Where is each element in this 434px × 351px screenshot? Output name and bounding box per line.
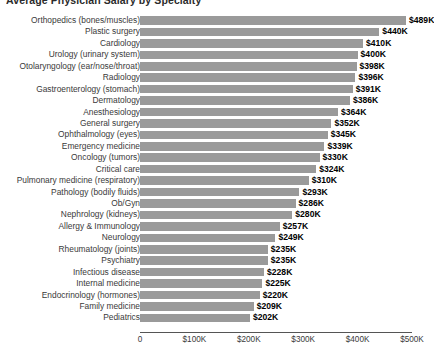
chart-row: Allergy & Immunology$257K	[0, 221, 424, 232]
chart-row: General surgery$352K	[0, 118, 424, 129]
bar-track: $209K	[140, 301, 424, 312]
bar[interactable]	[140, 85, 353, 94]
bar[interactable]	[140, 291, 260, 300]
bar-value-label: $489K	[409, 15, 434, 26]
bar-track: $391K	[140, 84, 424, 95]
bar-track: $410K	[140, 38, 424, 49]
category-label: Dermatology	[0, 95, 140, 106]
bar-track: $440K	[140, 26, 424, 37]
bar[interactable]	[140, 211, 292, 220]
bar[interactable]	[140, 199, 296, 208]
x-axis-tick-label: $500K	[400, 334, 424, 346]
category-label: Pediatrics	[0, 312, 140, 323]
bar[interactable]	[140, 62, 357, 71]
chart-rows: Orthopedics (bones/muscles)$489KPlastic …	[0, 15, 424, 324]
bar[interactable]	[140, 314, 250, 323]
bar[interactable]	[140, 39, 363, 48]
category-label: Gastroenterology (stomach)	[0, 84, 140, 95]
chart-row: Ob/Gyn$286K	[0, 198, 424, 209]
category-label: Ob/Gyn	[0, 198, 140, 209]
bar[interactable]	[140, 256, 268, 265]
bar-track: $257K	[140, 221, 424, 232]
bar[interactable]	[140, 28, 379, 37]
category-label: Radiology	[0, 72, 140, 83]
bar-track: $220K	[140, 290, 424, 301]
bar[interactable]	[140, 302, 254, 311]
chart-row: Plastic surgery$440K	[0, 26, 424, 37]
chart-row: Critical care$324K	[0, 164, 424, 175]
bar-value-label: $386K	[353, 95, 378, 106]
bar-value-label: $235K	[271, 244, 296, 255]
category-label: Oncology (tumors)	[0, 152, 140, 163]
category-label: Urology (urinary system)	[0, 49, 140, 60]
bar-value-label: $310K	[312, 175, 337, 186]
bar-track: $280K	[140, 209, 424, 220]
category-label: Emergency medicine	[0, 141, 140, 152]
category-label: Internal medicine	[0, 278, 140, 289]
bar[interactable]	[140, 234, 275, 243]
category-label: Psychiatry	[0, 255, 140, 266]
category-label: Pathology (bodily fluids)	[0, 187, 140, 198]
bar-track: $202K	[140, 312, 424, 323]
bar[interactable]	[140, 176, 309, 185]
x-axis-tick-label: $400K	[346, 334, 370, 346]
bar-track: $345K	[140, 129, 424, 140]
category-label: Ophthalmology (eyes)	[0, 129, 140, 140]
chart-title: Average Physician Salary by Specialty	[6, 0, 201, 6]
bar[interactable]	[140, 142, 324, 151]
bar-track: $489K	[140, 15, 424, 26]
bar[interactable]	[140, 268, 264, 277]
chart-row: Psychiatry$235K	[0, 255, 424, 266]
bar-value-label: $257K	[283, 221, 308, 232]
chart-row: Neurology$249K	[0, 232, 424, 243]
bar-value-label: $293K	[302, 187, 327, 198]
bar-value-label: $330K	[323, 152, 348, 163]
bar-track: $396K	[140, 72, 424, 83]
bar-value-label: $249K	[278, 232, 303, 243]
bar[interactable]	[140, 165, 316, 174]
bar-track: $324K	[140, 164, 424, 175]
bar-value-label: $202K	[253, 312, 278, 323]
bar-track: $330K	[140, 152, 424, 163]
chart-row: Endocrinology (hormones)$220K	[0, 290, 424, 301]
bar[interactable]	[140, 245, 268, 254]
x-axis-line	[140, 332, 412, 333]
bar-value-label: $398K	[360, 61, 385, 72]
category-label: Anesthesiology	[0, 107, 140, 118]
bar-track: $339K	[140, 141, 424, 152]
bar-track: $352K	[140, 118, 424, 129]
bar[interactable]	[140, 119, 331, 128]
bar-track: $235K	[140, 255, 424, 266]
bar[interactable]	[140, 16, 406, 25]
category-label: Cardiology	[0, 38, 140, 49]
chart-row: Orthopedics (bones/muscles)$489K	[0, 15, 424, 26]
bar-track: $225K	[140, 278, 424, 289]
bar[interactable]	[140, 108, 338, 117]
bar-value-label: $286K	[299, 198, 324, 209]
bar[interactable]	[140, 51, 358, 60]
chart-row: Infectious disease$228K	[0, 267, 424, 278]
bar[interactable]	[140, 131, 328, 140]
bar-value-label: $280K	[295, 209, 320, 220]
bar[interactable]	[140, 188, 299, 197]
category-label: Allergy & Immunology	[0, 221, 140, 232]
category-label: Orthopedics (bones/muscles)	[0, 15, 140, 26]
bar[interactable]	[140, 73, 355, 82]
category-label: Infectious disease	[0, 267, 140, 278]
category-label: Nephrology (kidneys)	[0, 209, 140, 220]
category-label: Pulmonary medicine (respiratory)	[0, 175, 140, 186]
x-axis-tick-label: 0	[138, 334, 143, 346]
bar[interactable]	[140, 222, 280, 231]
bar[interactable]	[140, 96, 350, 105]
chart-row: Otolaryngology (ear/nose/throat)$398K	[0, 61, 424, 72]
chart-row: Internal medicine$225K	[0, 278, 424, 289]
chart-row: Family medicine$209K	[0, 301, 424, 312]
bar[interactable]	[140, 279, 262, 288]
bar-value-label: $228K	[267, 267, 292, 278]
bar-track: $310K	[140, 175, 424, 186]
bar-track: $386K	[140, 95, 424, 106]
chart-row: Rheumatology (joints)$235K	[0, 244, 424, 255]
bar-value-label: $391K	[356, 84, 381, 95]
bar[interactable]	[140, 153, 320, 162]
